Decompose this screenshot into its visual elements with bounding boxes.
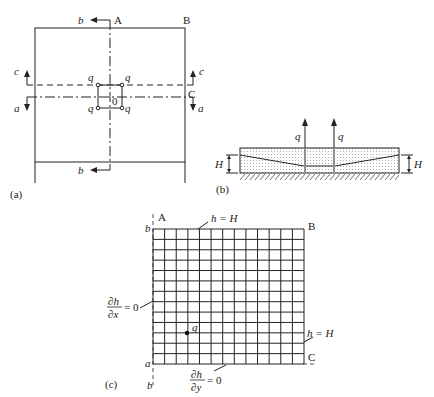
label-B: B xyxy=(308,220,315,232)
well-marker-icon xyxy=(120,106,124,110)
boundary-left-denominator: ∂x xyxy=(108,308,118,320)
label-A: A xyxy=(114,14,122,26)
caption-a: (a) xyxy=(10,188,23,201)
leader-bottom xyxy=(214,365,226,371)
panel-a xyxy=(24,17,196,183)
well-label-q: q xyxy=(125,71,131,83)
well-marker-icon xyxy=(120,83,124,87)
label-C: C xyxy=(188,88,195,100)
well-label-q: q xyxy=(295,130,301,142)
arrow-c-left-icon xyxy=(24,70,30,77)
well-point-icon xyxy=(185,331,189,335)
boundary-bottom-numerator: ∂h xyxy=(191,368,202,380)
dim-arrow-icon xyxy=(227,169,231,173)
label-b-bottom: b xyxy=(147,379,153,391)
boundary-bottom-equals: = 0 xyxy=(207,374,222,386)
aquifer-section xyxy=(240,148,399,173)
panel-c xyxy=(140,214,316,385)
arrow-a-left-icon xyxy=(24,104,30,111)
label-B: B xyxy=(183,14,190,26)
dim-arrow-icon xyxy=(407,169,411,173)
dim-arrow-icon xyxy=(227,155,231,159)
ground-hatching xyxy=(240,174,399,180)
arrow-a-right-icon xyxy=(190,104,196,111)
arrow-up-icon xyxy=(331,118,337,126)
height-label-H: H xyxy=(214,158,224,170)
well-label-q: q xyxy=(338,130,344,142)
well-marker-icon xyxy=(96,106,100,110)
boundary-left-equals: = 0 xyxy=(124,301,139,313)
panel-b xyxy=(226,118,413,180)
boundary-label-right: h = H xyxy=(307,327,334,339)
well-label-q: q xyxy=(192,321,198,333)
well-label-q: q xyxy=(88,102,94,114)
label-c-left: c xyxy=(14,65,19,77)
caption-b: (b) xyxy=(216,183,229,196)
label-a-left: a xyxy=(14,102,20,114)
diagram-canvas: b A B c c C a a q q q q 0 b (a) xyxy=(0,0,434,397)
label-b-bottom: b xyxy=(78,164,84,176)
well-label-q: q xyxy=(125,102,131,114)
well-marker-icon xyxy=(96,83,100,87)
label-a-right: a xyxy=(198,102,204,114)
arrow-c-right-icon xyxy=(190,70,196,77)
label-a: a xyxy=(145,357,151,369)
label-c-right: c xyxy=(199,65,204,77)
label-C: C xyxy=(308,351,315,363)
arrow-b-top-icon xyxy=(90,17,97,23)
dim-arrow-icon xyxy=(407,155,411,159)
label-b-top: b xyxy=(145,222,151,234)
boundary-bottom-denominator: ∂y xyxy=(191,381,201,393)
label-A: A xyxy=(158,211,166,223)
arrow-up-icon xyxy=(302,118,308,126)
caption-c: (c) xyxy=(105,378,118,391)
leader-top xyxy=(198,222,208,229)
leader-left xyxy=(140,301,153,308)
boundary-left-numerator: ∂h xyxy=(108,295,119,307)
label-b-top: b xyxy=(78,14,84,26)
origin-label: 0 xyxy=(112,95,118,107)
finite-difference-grid xyxy=(153,229,304,364)
height-label-H: H xyxy=(413,158,423,170)
arrow-b-bottom-icon xyxy=(90,167,97,173)
well-label-q: q xyxy=(88,71,94,83)
boundary-label-top: h = H xyxy=(211,212,238,224)
